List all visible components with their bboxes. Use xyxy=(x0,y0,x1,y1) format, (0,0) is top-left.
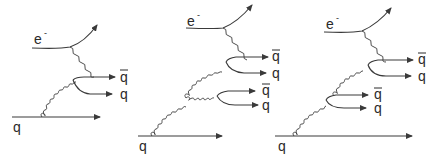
electron-label: e xyxy=(326,16,334,32)
quark-line-2 xyxy=(326,100,366,108)
incoming-quark-label: q xyxy=(13,119,21,135)
antiquark-line-2 xyxy=(217,91,255,96)
electron-label: e xyxy=(34,31,42,47)
electron-label: e xyxy=(187,13,195,29)
gluon-line-branch xyxy=(186,97,214,100)
electron-line xyxy=(324,8,391,32)
gluon-line-lower xyxy=(151,107,186,136)
gluon-line-upper xyxy=(333,71,363,96)
gluon-line xyxy=(41,82,76,117)
quark-line xyxy=(226,62,266,73)
antiquark-line-2 xyxy=(326,95,368,100)
antiquark-line xyxy=(368,60,413,65)
quark-line xyxy=(368,65,411,76)
antiquark-line xyxy=(73,77,115,80)
diagram-1: e - q q q xyxy=(12,25,128,135)
quark-line xyxy=(73,80,112,94)
quark-label-2: q xyxy=(262,97,270,113)
feynman-diagrams-figure: e - q q q e - q q q q xyxy=(0,0,435,158)
electron-line xyxy=(186,5,252,29)
gluon-line-upper xyxy=(185,72,222,98)
diagram-3: e - q q q q q xyxy=(275,8,426,154)
gluon-line-lower xyxy=(293,106,326,136)
antiquark-label: q xyxy=(120,69,128,85)
incoming-quark-label: q xyxy=(139,138,147,154)
incoming-quark-label: q xyxy=(278,138,286,154)
electron-charge: - xyxy=(336,13,339,23)
quark-label: q xyxy=(120,86,128,102)
photon-line xyxy=(70,47,94,77)
quark-label-2: q xyxy=(374,100,382,116)
photon-line xyxy=(223,28,247,60)
quark-label: q xyxy=(272,65,280,81)
electron-charge: - xyxy=(44,28,47,38)
antiquark-line xyxy=(226,57,268,62)
diagram-2: e - q q q q q xyxy=(138,5,280,154)
quark-line-2 xyxy=(217,96,258,105)
electron-charge: - xyxy=(197,10,200,20)
quark-label: q xyxy=(418,68,426,84)
photon-line xyxy=(362,31,386,62)
